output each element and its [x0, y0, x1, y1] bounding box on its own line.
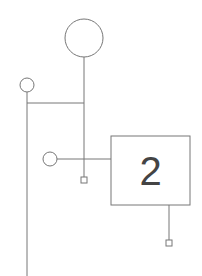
small-circle-mid-node: [43, 152, 57, 166]
diagram-canvas: 2: [0, 0, 202, 276]
box-label: 2: [139, 149, 161, 193]
terminal-square-a: [81, 177, 87, 183]
large-circle-node: [65, 19, 103, 57]
terminal-square-b: [166, 240, 172, 246]
small-circle-top-node: [20, 78, 34, 92]
